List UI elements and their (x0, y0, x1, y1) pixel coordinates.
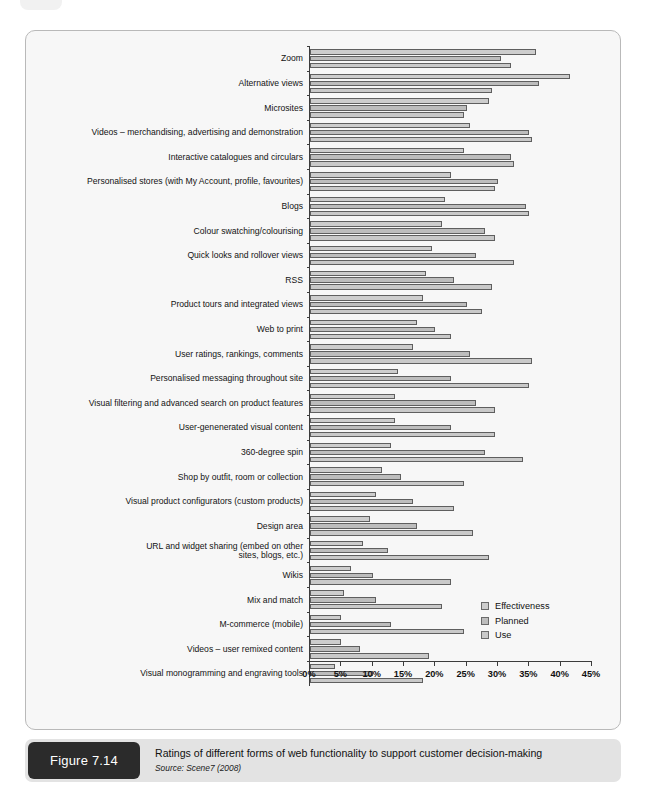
x-axis-tick-label: 10% (362, 669, 380, 679)
category-tick (307, 317, 310, 318)
chart-row: URL and widget sharing (embed on other s… (34, 539, 614, 564)
bar-planned (310, 179, 498, 184)
category-label: Mix and match (34, 596, 309, 606)
bar-planned (310, 400, 476, 405)
category-label: Visual product configurators (custom pro… (34, 497, 309, 507)
category-label: User ratings, rankings, comments (34, 350, 309, 360)
x-axis-tick (560, 661, 561, 666)
bar-group (309, 613, 606, 638)
figure-caption-text: Ratings of different forms of web functi… (143, 739, 621, 782)
bar-effectiveness (310, 344, 413, 349)
bar-group (309, 145, 606, 170)
category-tick (307, 562, 310, 563)
category-tick (307, 489, 310, 490)
bar-use (310, 112, 464, 117)
bar-effectiveness (310, 98, 489, 103)
bar-planned (310, 130, 529, 135)
category-tick (307, 95, 310, 96)
legend-item-use: Use (481, 630, 549, 640)
bar-planned (310, 277, 454, 282)
chart-rows: ZoomAlternative viewsMicrositesVideos – … (34, 47, 614, 686)
category-tick (307, 169, 310, 170)
bar-effectiveness (310, 615, 341, 620)
bar-planned (310, 573, 373, 578)
category-tick (307, 341, 310, 342)
bar-use (310, 161, 514, 166)
bar-group (309, 268, 606, 293)
category-tick (307, 292, 310, 293)
x-axis-tick-label: 45% (582, 669, 600, 679)
bar-effectiveness (310, 197, 445, 202)
category-label: Videos – user remixed content (34, 645, 309, 655)
bar-planned (310, 228, 485, 233)
category-label: Personalised stores (with My Account, pr… (34, 177, 309, 187)
chart-legend: EffectivenessPlannedUse (481, 601, 549, 645)
bar-use (310, 284, 492, 289)
bar-use (310, 604, 442, 609)
chart-row: Web to print (34, 318, 614, 343)
category-label: Interactive catalogues and circulars (34, 153, 309, 163)
chart-row: Visual product configurators (custom pro… (34, 490, 614, 515)
x-axis-tick-label: 35% (519, 669, 537, 679)
bar-planned (310, 622, 391, 627)
bar-planned (310, 450, 485, 455)
legend-label: Planned (495, 616, 529, 626)
bar-group (309, 47, 606, 72)
category-label: RSS (34, 276, 309, 286)
x-axis-tick-label: 15% (394, 669, 412, 679)
category-label: User-genenerated visual content (34, 423, 309, 433)
bar-effectiveness (310, 172, 451, 177)
chart-row: Wikis (34, 563, 614, 588)
bar-group (309, 121, 606, 146)
category-tick (307, 440, 310, 441)
bar-use (310, 481, 464, 486)
category-label: Blogs (34, 202, 309, 212)
figure-source: Source: Scene7 (2008) (155, 763, 611, 773)
bar-effectiveness (310, 369, 398, 374)
category-label: Colour swatching/colourising (34, 227, 309, 237)
bar-use (310, 629, 464, 634)
bar-use (310, 555, 489, 560)
bar-planned (310, 253, 476, 258)
bar-use (310, 407, 495, 412)
bar-planned (310, 154, 511, 159)
category-label: 360-degree spin (34, 448, 309, 458)
bar-planned (310, 351, 470, 356)
legend-item-effectiveness: Effectiveness (481, 601, 549, 611)
bar-use (310, 235, 495, 240)
bar-planned (310, 105, 467, 110)
chart-row: 360-degree spin (34, 441, 614, 466)
bar-group (309, 465, 606, 490)
bar-group (309, 72, 606, 97)
x-axis-tick (528, 661, 529, 666)
bar-effectiveness (310, 49, 536, 54)
category-label: Design area (34, 522, 309, 532)
bar-group (309, 318, 606, 343)
bar-group (309, 367, 606, 392)
legend-swatch-icon (481, 631, 489, 639)
bar-group (309, 293, 606, 318)
bar-use (310, 260, 514, 265)
bar-use (310, 186, 495, 191)
category-label: Quick looks and rollover views (34, 251, 309, 261)
x-axis-tick (591, 661, 592, 666)
bar-effectiveness (310, 74, 570, 79)
bar-group (309, 588, 606, 613)
bar-use (310, 309, 482, 314)
figure-panel: ZoomAlternative viewsMicrositesVideos – … (25, 30, 621, 730)
bar-effectiveness (310, 590, 344, 595)
bar-planned (310, 376, 451, 381)
category-tick (307, 144, 310, 145)
chart-row: Quick looks and rollover views (34, 244, 614, 269)
bar-effectiveness (310, 271, 426, 276)
category-label: Web to print (34, 325, 309, 335)
x-axis-tick (497, 661, 498, 666)
x-axis-tick (403, 661, 404, 666)
bar-planned (310, 56, 501, 61)
bar-effectiveness (310, 418, 395, 423)
bar-effectiveness (310, 148, 464, 153)
category-tick (307, 218, 310, 219)
x-axis-tick (466, 661, 467, 666)
category-label: Shop by outfit, room or collection (34, 473, 309, 483)
bar-use (310, 530, 473, 535)
